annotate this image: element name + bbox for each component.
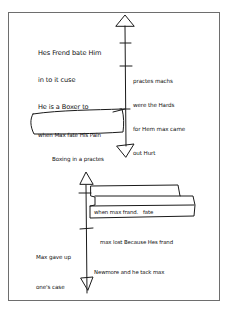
note-line: when Max fate His Pain — [38, 131, 104, 139]
note-line: Newmore and he tack max — [94, 267, 173, 277]
note-max-lost: when max frand. fate max lost Because He… — [94, 187, 173, 287]
note-line: when max frand. fate — [94, 207, 173, 217]
note-line: Hes Frend bate Him — [38, 49, 101, 58]
note-line: in to it cuse — [38, 76, 101, 85]
timeline-1-up-arrow-icon — [116, 15, 134, 26]
note-max-gave-up: Max gave up one's case of the fit with w… — [36, 232, 71, 310]
note-line: one's case — [36, 282, 71, 292]
note-line: Max gave up — [36, 252, 71, 262]
note-max-pain-practice: when Max fate His Pain Boxing in a pract… — [38, 115, 104, 171]
note-friend-boxer: Hes Frend bate Him in to it cuse He is a… — [38, 31, 101, 121]
note-line: Boxing in a practes — [38, 155, 104, 163]
timeline-1-axis — [125, 26, 126, 146]
note-line: were the Hards — [133, 101, 185, 109]
timeline-2-axis — [86, 185, 87, 293]
note-practice-matches: practes machs were the Hards for Hem max… — [133, 61, 185, 165]
timeline-2-up-arrow-icon — [80, 172, 93, 184]
note-line: out Hurt — [133, 149, 185, 157]
note-line: practes machs — [133, 77, 185, 85]
note-line: for Hem max came — [133, 125, 185, 133]
note-line: He is a Boxer to — [38, 103, 101, 112]
note-line: max lost Because Hes frand — [94, 237, 173, 247]
